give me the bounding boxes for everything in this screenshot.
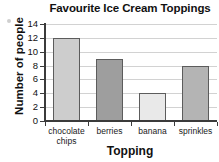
y-axis-tick	[40, 79, 45, 80]
x-axis-tick	[88, 122, 89, 126]
scan-artifact	[7, 19, 11, 23]
bar-berries	[96, 59, 123, 121]
y-axis-tick-label: 4	[18, 88, 38, 98]
x-axis-title: Topping	[44, 144, 216, 158]
y-axis-tick	[40, 52, 45, 53]
x-axis-category-label: sprinkles	[170, 127, 219, 137]
chart-title: Favourite Ice Cream Toppings	[44, 2, 216, 15]
y-axis-tick-label: 8	[18, 61, 38, 71]
bar-chart-figure: Favourite Ice Cream Toppings Number of p…	[0, 0, 219, 162]
x-axis-tick	[131, 122, 132, 126]
y-axis-tick	[40, 93, 45, 94]
gridline	[45, 24, 217, 25]
bar-sprinkles	[182, 66, 209, 121]
x-axis-tick	[217, 122, 218, 126]
bar-chocolate-chips	[53, 38, 80, 121]
plot-area	[45, 24, 217, 121]
y-axis-tick-label: 14	[18, 19, 38, 29]
y-axis-tick-label: 0	[18, 116, 38, 126]
y-axis-tick-label: 12	[18, 33, 38, 43]
y-axis-tick	[40, 107, 45, 108]
x-axis-tick	[45, 122, 46, 126]
x-axis-tick	[174, 122, 175, 126]
y-axis-tick	[40, 38, 45, 39]
y-axis-tick-label: 6	[18, 74, 38, 84]
y-axis-tick-label: 2	[18, 102, 38, 112]
y-axis-tick	[40, 24, 45, 25]
bar-banana	[139, 93, 166, 121]
y-axis-tick	[40, 66, 45, 67]
y-axis-tick-label: 10	[18, 47, 38, 57]
